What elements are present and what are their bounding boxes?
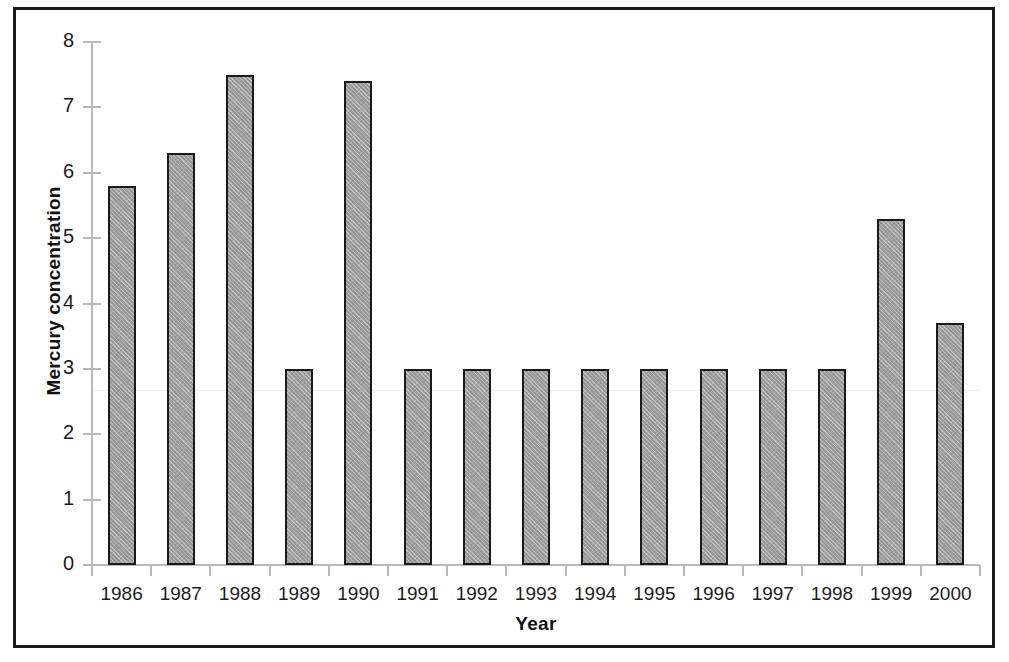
x-axis-tick — [328, 565, 330, 576]
bar — [167, 153, 195, 565]
y-axis-tick-label-text: 8 — [34, 29, 74, 52]
x-axis-tick — [624, 565, 626, 576]
x-axis-tick-label: 1991 — [388, 583, 447, 605]
bar — [226, 75, 254, 565]
x-axis-tick — [920, 565, 922, 576]
x-axis-tick — [505, 565, 507, 576]
y-axis-title: Mercury concentration — [43, 161, 65, 421]
bar — [522, 369, 550, 565]
x-axis-tick-label: 1999 — [862, 583, 921, 605]
bar — [936, 323, 964, 565]
x-axis-tick — [387, 565, 389, 576]
x-axis-tick-label: 1986 — [92, 583, 151, 605]
x-axis-tick — [269, 565, 271, 576]
y-axis-tick-label: 8 — [26, 29, 74, 53]
bar — [108, 186, 136, 565]
x-axis-tick — [683, 565, 685, 576]
x-axis-tick — [209, 565, 211, 576]
x-axis-tick-label: 1997 — [743, 583, 802, 605]
x-axis-title: Year — [92, 613, 980, 635]
y-axis-tick — [83, 433, 101, 435]
x-axis-tick — [565, 565, 567, 576]
y-axis-tick — [83, 499, 101, 501]
bar — [463, 369, 491, 565]
y-axis-tick — [83, 172, 101, 174]
y-axis-tick-label: 1 — [26, 487, 74, 511]
y-axis-tick-label: 0 — [26, 552, 74, 576]
y-axis-tick — [83, 41, 101, 43]
x-axis-tick — [801, 565, 803, 576]
x-axis-tick-label: 2000 — [921, 583, 980, 605]
y-axis-tick — [83, 368, 101, 370]
y-axis-tick — [83, 106, 101, 108]
x-axis-tick — [150, 565, 152, 576]
x-axis-tick-label: 1992 — [447, 583, 506, 605]
y-axis-tick-label: 2 — [26, 421, 74, 445]
bar — [877, 219, 905, 565]
x-axis-tick — [979, 565, 981, 576]
x-axis-tick-label: 1995 — [625, 583, 684, 605]
x-axis-tick-label: 1994 — [566, 583, 625, 605]
x-axis-tick-label: 1988 — [210, 583, 269, 605]
x-axis-tick — [742, 565, 744, 576]
y-axis-tick — [83, 303, 101, 305]
bar — [759, 369, 787, 565]
x-axis-tick — [91, 565, 93, 576]
y-axis-tick-label-text: 1 — [34, 487, 74, 510]
x-axis-tick-label: 1993 — [506, 583, 565, 605]
x-axis-tick-label: 1990 — [329, 583, 388, 605]
x-axis-tick-label: 1989 — [270, 583, 329, 605]
bar — [404, 369, 432, 565]
bar-chart: 012345678 198619871988198919901991199219… — [0, 0, 1009, 662]
x-axis-tick-label: 1987 — [151, 583, 210, 605]
y-axis-tick — [83, 237, 101, 239]
y-axis-tick-label-text: 7 — [34, 94, 74, 117]
bar — [581, 369, 609, 565]
y-axis-tick-label-text: 0 — [34, 552, 74, 575]
y-axis-tick-label: 7 — [26, 94, 74, 118]
bar — [344, 81, 372, 565]
x-axis-tick-label: 1996 — [684, 583, 743, 605]
bar — [700, 369, 728, 565]
bar — [640, 369, 668, 565]
bar — [285, 369, 313, 565]
bar — [818, 369, 846, 565]
x-axis-tick — [861, 565, 863, 576]
x-axis-tick — [446, 565, 448, 576]
y-axis-tick-label-text: 2 — [34, 421, 74, 444]
x-axis-tick-label: 1998 — [802, 583, 861, 605]
